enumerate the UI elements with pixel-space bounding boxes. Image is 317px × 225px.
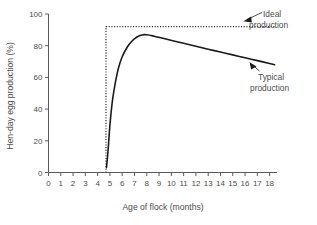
ideal-production-line <box>106 27 275 173</box>
x-axis-ticks <box>49 173 270 177</box>
x-tick-label: 17 <box>253 179 262 188</box>
x-tick-label: 14 <box>216 179 225 188</box>
x-tick-label: 3 <box>83 179 88 188</box>
x-tick-label: 5 <box>108 179 113 188</box>
y-tick-label: 100 <box>29 10 43 19</box>
annotation-typical-line2: production <box>250 83 289 94</box>
annotation-ideal-production: Ideal production <box>263 9 288 30</box>
typical-production-curve <box>106 35 274 168</box>
annotation-ideal-line1: Ideal <box>263 9 281 19</box>
data-series-group <box>106 27 275 173</box>
annotation-ideal-line2: production <box>249 20 288 31</box>
y-tick-label: 40 <box>34 105 43 114</box>
x-axis-tick-labels: 0123456789101112131415161718 <box>46 179 274 188</box>
x-tick-label: 2 <box>71 179 76 188</box>
chart-figure: 020406080100 012345678910111213141516171… <box>0 0 317 225</box>
x-tick-label: 7 <box>132 179 137 188</box>
y-axis-ticks <box>45 14 49 173</box>
y-axis-tick-labels: 020406080100 <box>29 10 43 178</box>
x-axis-title: Age of flock (months) <box>122 202 203 212</box>
x-tick-label: 13 <box>204 179 213 188</box>
annotation-typical-line1: Typical <box>258 72 284 82</box>
x-tick-label: 18 <box>265 179 274 188</box>
y-axis: 020406080100 <box>29 10 48 178</box>
x-tick-label: 11 <box>179 179 188 188</box>
x-tick-label: 0 <box>46 179 51 188</box>
x-tick-label: 15 <box>228 179 237 188</box>
y-tick-label: 0 <box>38 169 43 178</box>
x-tick-label: 9 <box>157 179 162 188</box>
x-tick-label: 16 <box>241 179 250 188</box>
x-tick-label: 1 <box>59 179 64 188</box>
y-tick-label: 20 <box>34 137 43 146</box>
annotation-typical-production: Typical production <box>258 72 289 93</box>
x-tick-label: 4 <box>95 179 100 188</box>
y-axis-title: Hen-day egg production (%) <box>5 42 15 150</box>
x-tick-label: 8 <box>145 179 150 188</box>
y-tick-label: 80 <box>34 42 43 51</box>
x-tick-label: 6 <box>120 179 125 188</box>
typical-arrow-head <box>250 62 257 69</box>
x-axis: 0123456789101112131415161718 <box>46 173 277 189</box>
chart-canvas: 020406080100 012345678910111213141516171… <box>0 0 317 225</box>
x-tick-label: 12 <box>191 179 200 188</box>
x-tick-label: 10 <box>167 179 176 188</box>
y-tick-label: 60 <box>34 73 43 82</box>
